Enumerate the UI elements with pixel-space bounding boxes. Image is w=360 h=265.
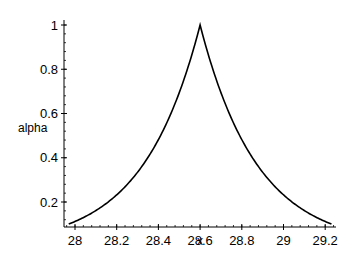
x-tick-label: 29.2 xyxy=(313,233,338,248)
y-tick-label: 0.8 xyxy=(40,62,58,77)
y-tick-label: 0.2 xyxy=(40,195,58,210)
chart: 0.20.40.60.81 2828.228.428.628.82929.2 a… xyxy=(0,0,360,265)
plot-area xyxy=(69,25,332,224)
y-tick-label: 1 xyxy=(51,18,58,33)
y-tick-label: 0.6 xyxy=(40,106,58,121)
x-tick-label: 28.8 xyxy=(229,233,254,248)
x-tick-label: 28.2 xyxy=(104,233,129,248)
series-line-alpha xyxy=(69,25,332,224)
x-axis-label: x xyxy=(197,234,203,248)
x-tick-label: 29 xyxy=(276,233,290,248)
x-tick-label: 28.4 xyxy=(146,233,171,248)
y-tick-label: 0.4 xyxy=(40,150,58,165)
x-tick-label: 28 xyxy=(68,233,82,248)
y-axis-label: alpha xyxy=(18,121,48,135)
